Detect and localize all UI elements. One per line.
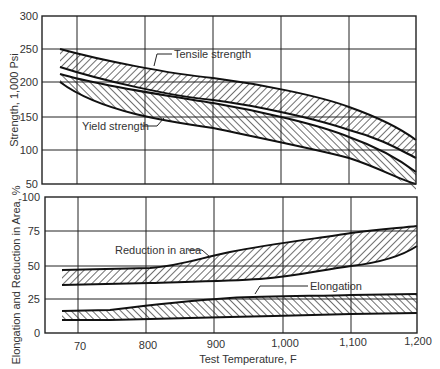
x-tick: 1,100 bbox=[339, 336, 367, 348]
y-tick: 75 bbox=[28, 225, 40, 237]
y-tick: 100 bbox=[20, 144, 38, 156]
y-tick: 50 bbox=[26, 178, 38, 190]
temperature-axis-label: Test Temperature, F bbox=[199, 353, 297, 365]
top-y-ticks: 300 250 200 150 100 50 bbox=[20, 10, 38, 190]
x-tick: 900 bbox=[207, 338, 225, 350]
chart-canvas: Tensile strength Yield strength 300 250 … bbox=[0, 0, 440, 369]
strength-panel: Tensile strength Yield strength 300 250 … bbox=[8, 10, 416, 190]
yield-strength-label: Yield strength bbox=[82, 120, 149, 132]
x-ticks: 70 800 900 1,000 1,100 1,200 bbox=[74, 335, 432, 352]
x-tick: 70 bbox=[74, 340, 86, 352]
y-tick: 100 bbox=[22, 191, 40, 203]
elongation-label: Elongation bbox=[310, 280, 362, 292]
y-tick: 50 bbox=[28, 260, 40, 272]
ductility-axis-label: Elongation and Reduction in Area, % bbox=[10, 185, 22, 364]
strength-axis-label: Strength, 1,000 Psi bbox=[8, 53, 20, 147]
tensile-strength-label: Tensile strength bbox=[174, 48, 251, 60]
y-tick: 150 bbox=[20, 111, 38, 123]
ductility-panel: Reduction in area Elongation 100 75 50 2… bbox=[10, 185, 432, 365]
y-tick: 0 bbox=[34, 327, 40, 339]
y-tick: 200 bbox=[20, 76, 38, 88]
y-tick: 250 bbox=[20, 43, 38, 55]
x-tick: 1,200 bbox=[404, 335, 432, 347]
x-tick: 800 bbox=[139, 339, 157, 351]
x-tick: 1,000 bbox=[271, 337, 299, 349]
y-tick: 25 bbox=[28, 293, 40, 305]
bottom-y-ticks: 100 75 50 25 0 bbox=[22, 191, 40, 339]
reduction-in-area-label: Reduction in area bbox=[115, 244, 202, 256]
y-tick: 300 bbox=[20, 10, 38, 22]
